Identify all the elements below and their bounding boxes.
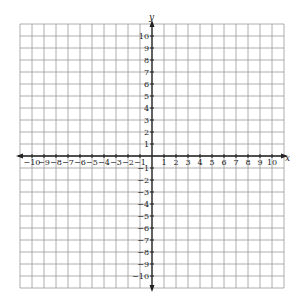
x-tick-label: −4: [98, 158, 110, 167]
x-tick-label: 8: [245, 158, 250, 167]
x-tick-label: −2: [122, 158, 134, 167]
y-tick-label: −6: [137, 224, 149, 233]
y-tick-label: 4: [144, 104, 149, 113]
x-axis-left-arrow-icon: [16, 154, 23, 159]
x-tick-label: 1: [161, 158, 166, 167]
x-tick-label: 4: [197, 158, 202, 167]
y-tick-label: −4: [137, 200, 149, 209]
y-tick-label: −3: [137, 188, 149, 197]
x-tick-label: 10: [267, 158, 277, 167]
y-tick-label: 1: [144, 140, 149, 149]
x-tick-label: −8: [50, 158, 62, 167]
y-tick-label: 10: [139, 32, 149, 41]
y-tick-label: −10: [132, 272, 149, 281]
y-tick-label: −2: [137, 176, 149, 185]
y-tick-label: 7: [144, 68, 149, 77]
y-tick-label: 5: [144, 92, 149, 101]
x-tick-label: 2: [173, 158, 178, 167]
x-tick-labels: −10−9−8−7−6−5−4−3−2−112345678910: [24, 158, 278, 167]
y-tick-label: −8: [137, 248, 149, 257]
y-tick-label: 6: [144, 80, 149, 89]
x-tick-label: 5: [209, 158, 214, 167]
x-tick-label: 3: [185, 158, 190, 167]
axes: [16, 20, 288, 292]
x-tick-label: 6: [221, 158, 226, 167]
x-tick-label: −9: [38, 158, 50, 167]
x-tick-label: −6: [74, 158, 86, 167]
y-tick-label: 2: [144, 128, 149, 137]
coordinate-plane: −10−9−8−7−6−5−4−3−2−112345678910 1098765…: [0, 0, 302, 303]
x-tick-label: −5: [86, 158, 98, 167]
y-tick-label: 3: [144, 116, 149, 125]
x-tick-label: −3: [110, 158, 122, 167]
x-tick-label: 9: [257, 158, 262, 167]
y-axis-label: y: [148, 12, 155, 22]
y-tick-label: 9: [144, 44, 149, 53]
y-tick-label: −5: [137, 212, 149, 221]
x-axis-label: x: [285, 153, 290, 163]
x-tick-label: −7: [62, 158, 74, 167]
y-tick-label: −9: [137, 260, 149, 269]
x-tick-label: 7: [233, 158, 238, 167]
y-tick-label: 8: [144, 56, 149, 65]
y-tick-label: −7: [137, 236, 149, 245]
y-tick-label: −1: [137, 164, 149, 173]
y-axis-down-arrow-icon: [150, 285, 155, 292]
